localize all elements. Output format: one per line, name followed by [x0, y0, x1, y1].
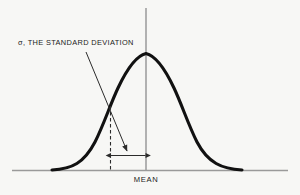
- mean-axis-label-text: MEAN: [134, 175, 159, 184]
- sigma-annotation-label: σ, THE STANDARD DEVIATION: [18, 38, 134, 47]
- bell-curve-canvas: [0, 0, 300, 195]
- normal-distribution-figure: σ, THE STANDARD DEVIATION MEAN: [0, 0, 300, 195]
- sigma-leader-line: [86, 52, 127, 151]
- normal-distribution-curve: [52, 54, 242, 171]
- mean-axis-label: MEAN: [0, 175, 300, 184]
